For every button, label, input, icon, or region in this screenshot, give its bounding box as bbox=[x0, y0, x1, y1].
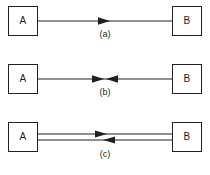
panel-caption-c: (c) bbox=[0, 150, 210, 159]
panel-caption-a: (a) bbox=[0, 30, 210, 39]
edge-group-half-duplex bbox=[0, 58, 210, 114]
panel-caption-b: (b) bbox=[0, 88, 210, 97]
edge-group-simplex bbox=[0, 0, 210, 56]
arrowhead-right-icon bbox=[92, 75, 104, 83]
arrowhead-left-icon bbox=[103, 136, 115, 143]
panel-simplex: A B (a) bbox=[0, 0, 210, 56]
panel-half-duplex: A B (b) bbox=[0, 58, 210, 114]
arrowhead-right-icon bbox=[98, 17, 110, 25]
arrowhead-left-icon bbox=[106, 75, 118, 83]
edge-group-full-duplex bbox=[0, 116, 210, 172]
arrowhead-right-icon bbox=[95, 130, 107, 137]
link-direction-diagram: A B (a) A B (b) A B bbox=[0, 0, 210, 175]
panel-full-duplex: A B (c) bbox=[0, 116, 210, 172]
